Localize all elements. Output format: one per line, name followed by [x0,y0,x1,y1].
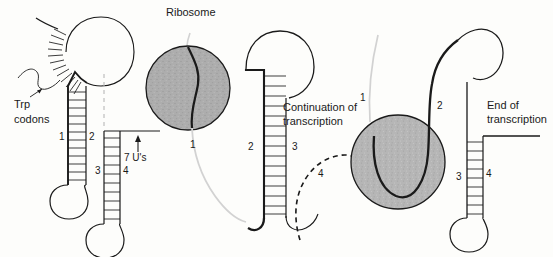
stem34-base-pairs [104,138,120,219]
panel1-segment-4-label: 4 [123,165,129,177]
ribosome-label: Ribosome [166,6,216,19]
end-of-transcription-label-line1: End of [487,99,519,112]
panel-3-structure [351,29,540,252]
trp-codons-arrow-head [37,89,42,94]
ribosome-icon [146,46,230,130]
trp-codons-pointer-squiggle [18,69,60,89]
hairpin23-loop [246,31,314,98]
segment2-open-loop [458,29,503,79]
panel3-segment-4-label: 4 [486,168,492,180]
panel2-segment-1-label: 1 [190,139,196,151]
attenuation-diagram: Trp codons 1 2 3 4 7 U's Ribosome 1 2 3 … [0,0,553,257]
segment1-released-strand [369,35,378,122]
end-of-transcription-label-line2: transcription [487,113,547,126]
trp-codons-label-line2: codons [14,113,49,126]
panel2-segment-3-label: 3 [292,141,298,153]
panel1-segment-1-label: 1 [59,131,65,143]
panel2-segment-4-label: 4 [318,168,324,180]
panel1-segment-3-label: 3 [95,165,101,177]
diagram-canvas [0,0,553,257]
mrna-strand-exiting [192,128,246,222]
continuation-label-line1: Continuation of [283,101,357,114]
leader-loop-outline [66,17,134,86]
stem1-left-strand [68,72,87,185]
terminator-base-pairs [467,142,483,214]
ribosome-icon-2 [351,115,445,209]
panel3-segment-3-label: 3 [456,171,462,183]
seven-us-label: 7 U's [124,152,146,164]
stem1-base-pairs [68,92,86,180]
five-prime-tail [36,18,58,29]
stem34-terminal-loop [86,224,124,257]
continuation-label-line2: transcription [283,115,343,128]
hairpin23-base-pairs [264,76,286,214]
panel1-segment-2-label: 2 [89,131,95,143]
panel3-segment-2-label: 2 [437,100,443,112]
panel-2-structure [146,31,352,240]
trp-codons-label-line1: Trp [14,98,30,111]
hairpin23-bottom-turn-thick [248,218,264,230]
panel3-segment-1-label: 1 [360,92,366,104]
panel2-segment-2-label: 2 [248,141,254,153]
terminator-terminal-loop [450,218,488,252]
seven-us-arrow-head [135,135,141,142]
trp-codon-hatching [48,29,81,94]
stem1-terminal-loop [50,185,88,219]
hairpin23-bottom-turn-thin [286,214,318,230]
